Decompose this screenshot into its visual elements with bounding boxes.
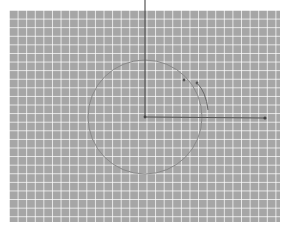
- x-axis-end-point: [263, 116, 266, 119]
- origin-point: [144, 116, 147, 119]
- x-axis: [145, 117, 266, 118]
- point-a: [183, 79, 186, 82]
- diagram-overlay: [0, 0, 290, 227]
